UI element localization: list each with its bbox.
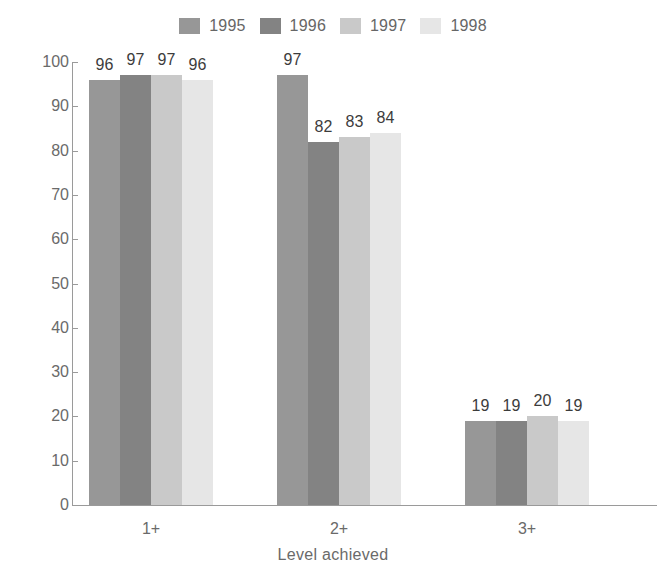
bar (370, 133, 401, 505)
bar (339, 137, 370, 505)
bar (527, 416, 558, 505)
bar-value-label: 83 (346, 113, 364, 131)
bar-value-label: 19 (503, 397, 521, 415)
bar-value-label: 19 (472, 397, 490, 415)
bar-value-label: 82 (315, 118, 333, 136)
bar (496, 421, 527, 505)
y-axis-tick-label: 100 (16, 53, 78, 71)
bar (151, 75, 182, 505)
y-axis-tick-label: 0 (16, 496, 78, 514)
bar (182, 80, 213, 505)
bar (89, 80, 120, 505)
y-axis-tick-label: 90 (16, 97, 78, 115)
y-axis-tick-label: 10 (16, 452, 78, 470)
x-axis-category-label: 1+ (142, 520, 160, 538)
bar (120, 75, 151, 505)
y-axis-tick-label: 80 (16, 142, 78, 160)
x-axis-category-label: 2+ (330, 520, 348, 538)
x-axis-line (72, 505, 657, 506)
y-axis-tick-label: 70 (16, 186, 78, 204)
x-axis-title: Level achieved (0, 546, 666, 564)
bar-value-label: 20 (534, 392, 552, 410)
bar-chart: 1995199619971998 0102030405060708090100 … (0, 0, 666, 571)
x-axis-category-label: 3+ (518, 520, 536, 538)
bar-value-label: 96 (96, 56, 114, 74)
y-axis-tick-label: 20 (16, 407, 78, 425)
bar-value-label: 97 (158, 51, 176, 69)
bar (558, 421, 589, 505)
y-axis-tick-label: 40 (16, 319, 78, 337)
bar-value-label: 19 (565, 397, 583, 415)
y-axis-tick-label: 60 (16, 230, 78, 248)
bar (277, 75, 308, 505)
bar-value-label: 97 (284, 51, 302, 69)
bar (465, 421, 496, 505)
bar (308, 142, 339, 505)
bar-value-label: 97 (127, 51, 145, 69)
bar-value-label: 96 (189, 56, 207, 74)
bar-value-label: 84 (377, 109, 395, 127)
y-axis-tick-label: 30 (16, 363, 78, 381)
plot-area: 0102030405060708090100 96979796978283841… (0, 0, 666, 571)
y-axis-tick-label: 50 (16, 275, 78, 293)
